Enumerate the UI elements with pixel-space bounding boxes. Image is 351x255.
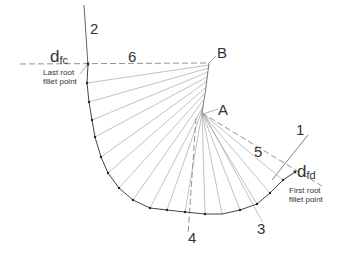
dfd-sub: fd bbox=[306, 169, 315, 181]
dfd-main: d bbox=[297, 162, 306, 181]
leader-first-root bbox=[290, 172, 295, 176]
first-root-line2: fillet point bbox=[289, 195, 324, 204]
leader-last-root bbox=[80, 64, 88, 74]
last-root-line2: fillet point bbox=[43, 77, 78, 86]
label-b: B bbox=[217, 44, 227, 61]
label-dfd: dfd bbox=[297, 162, 316, 181]
line-4 bbox=[188, 118, 196, 235]
label-2: 2 bbox=[90, 20, 98, 37]
root-fillet-diagram: 2 6 B A 1 5 3 4 dfc dfd Last root fillet… bbox=[0, 0, 351, 255]
label-3: 3 bbox=[257, 220, 265, 237]
first-root-line1: First root bbox=[289, 186, 321, 195]
label-6: 6 bbox=[128, 48, 136, 65]
label-dfc: dfc bbox=[50, 47, 69, 66]
line-6-dfc bbox=[20, 63, 209, 64]
last-root-line1: Last root bbox=[43, 68, 75, 77]
leader-a bbox=[203, 109, 218, 114]
label-1: 1 bbox=[296, 121, 304, 138]
dfc-sub: fc bbox=[59, 54, 68, 66]
label-4: 4 bbox=[188, 229, 196, 246]
line-2 bbox=[84, 5, 88, 66]
label-5: 5 bbox=[254, 143, 262, 160]
dfc-main: d bbox=[50, 47, 59, 66]
tip-edge bbox=[202, 63, 209, 113]
label-a: A bbox=[218, 101, 228, 118]
leader-b bbox=[209, 56, 216, 63]
